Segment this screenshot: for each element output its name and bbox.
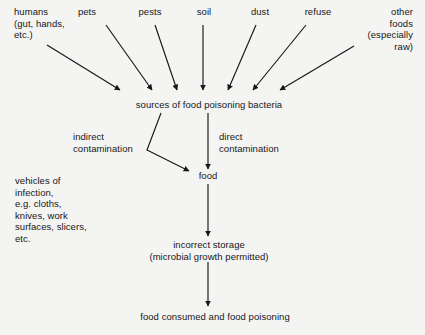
node-sources-hub: sources of food poisoning bacteria (136, 99, 282, 111)
arrow-dust-to-sources (228, 25, 256, 90)
edge-label-indirect-contamination: indirect contamination (73, 131, 133, 154)
source-label-pets: pets (78, 6, 96, 18)
source-label-humans: humans (gut, hands, etc.) (14, 6, 65, 41)
arrow-humans-to-sources (47, 45, 120, 90)
arrow-pets-to-sources (106, 25, 152, 90)
node-vehicles-of-infection: vehicles of infection, e.g. cloths, kniv… (15, 175, 87, 245)
arrow-other-foods-to-sources (280, 46, 354, 90)
source-label-pests: pests (139, 6, 162, 18)
node-outcome: food consumed and food poisoning (140, 311, 290, 323)
edge-label-direct-contamination: direct contamination (219, 131, 279, 154)
arrow-edge-layer (0, 0, 425, 335)
source-label-other-foods: other foods (especially raw) (368, 6, 413, 52)
arrow-refuse-to-sources (253, 25, 306, 90)
arrow-pests-to-sources (155, 25, 177, 90)
arrow-indirect-contamination-to-food (147, 113, 189, 171)
node-food: food (199, 170, 218, 182)
source-label-dust: dust (251, 6, 269, 18)
node-incorrect-storage: incorrect storage (microbial growth perm… (149, 239, 268, 262)
food-poisoning-flow-diagram: humans (gut, hands, etc.) pets pests soi… (0, 0, 425, 335)
source-label-refuse: refuse (305, 6, 332, 18)
source-label-soil: soil (197, 6, 211, 18)
